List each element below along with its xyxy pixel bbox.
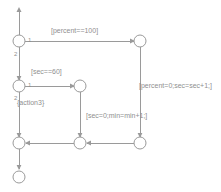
- edge-j6-j7: [138, 47, 143, 138]
- order-number-j1-2: 2: [14, 51, 17, 58]
- edge-j2-j4: [25, 84, 75, 89]
- label-percent-reset: [percent=0;sec=sec+1;]: [139, 82, 212, 90]
- label-sec-eq-60-text: [sec==60]: [31, 68, 62, 75]
- label-action3: {action3}: [17, 99, 44, 107]
- flow-graph-canvas: [percent==100] [sec==60] [percent=0;sec=…: [0, 0, 221, 192]
- label-percent-eq-100: [percent==100]: [51, 27, 98, 35]
- entry-arrow-icon: [17, 7, 22, 35]
- junction-7[interactable]: [134, 137, 146, 149]
- junction-3[interactable]: [13, 137, 25, 149]
- flow-graph-svg: [0, 0, 221, 192]
- terminator-junction[interactable]: [13, 171, 25, 183]
- edge-j5-j3: [25, 141, 74, 146]
- junction-4[interactable]: [74, 80, 86, 92]
- edge-j7-j5: [86, 141, 134, 146]
- edge-j4-j5: [78, 92, 83, 138]
- junction-5[interactable]: [74, 137, 86, 149]
- order-number-j2-1: 1: [28, 82, 31, 89]
- junction-6[interactable]: [134, 35, 146, 47]
- junction-2[interactable]: [13, 80, 25, 92]
- label-sec-reset: [sec=0;min=min+1;]: [86, 112, 147, 120]
- label-sec-eq-60: [sec==60]: [31, 68, 62, 76]
- order-number-j2-2: 2: [14, 95, 17, 102]
- order-number-j1-1: 1: [28, 37, 31, 44]
- junction-1[interactable]: [13, 35, 25, 47]
- edge-j3-terminator: [17, 149, 22, 170]
- edge-j1-j6: [25, 39, 135, 44]
